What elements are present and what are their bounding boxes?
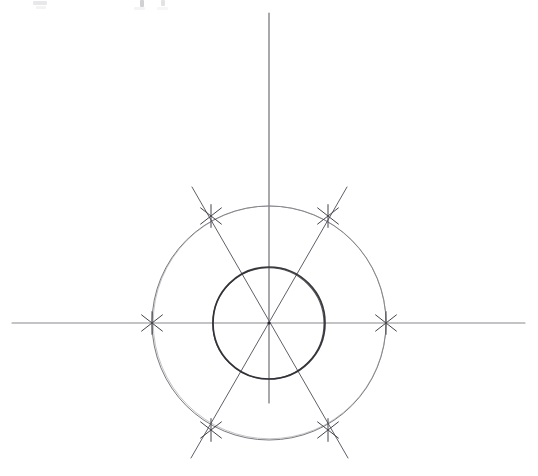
faint-trace-right	[161, 0, 165, 6]
geometric-construction-figure	[0, 0, 538, 476]
faint-trace-far	[36, 6, 46, 9]
faint-trace-smudge-b	[157, 7, 168, 10]
faint-trace-smudge-a	[134, 7, 145, 10]
drawing-canvas	[0, 0, 538, 476]
faint-trace-mid	[140, 0, 144, 7]
center-point	[267, 321, 270, 324]
faint-trace-left	[33, 1, 47, 5]
